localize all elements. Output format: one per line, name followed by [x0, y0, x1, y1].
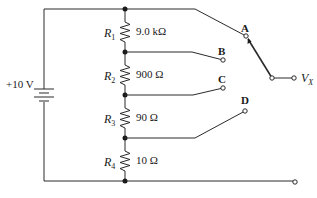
switch-label-a: A: [241, 22, 249, 34]
resistor-r2-icon: [120, 65, 130, 85]
r3-value: 90 Ω: [136, 111, 158, 123]
resistor-r3-icon: [120, 108, 130, 128]
terminal-d[interactable]: [243, 109, 247, 113]
terminal-ground[interactable]: [293, 180, 297, 184]
switch-label-d: D: [241, 94, 249, 106]
switch-label-c: C: [218, 73, 226, 85]
resistor-r1-icon: [120, 22, 130, 42]
switch-label-b: B: [218, 45, 226, 57]
r3-name: R3: [103, 112, 115, 128]
r4-name: R4: [103, 155, 115, 171]
wire-to-c: [125, 88, 223, 95]
battery-icon: [34, 89, 54, 101]
r2-name: R2: [103, 69, 115, 85]
resistor-r4-icon: [120, 151, 130, 171]
r2-value: 900 Ω: [136, 68, 163, 80]
r1-name: R1: [103, 26, 115, 42]
switch-pivot: [270, 76, 274, 80]
node-dot: [123, 179, 128, 184]
terminal-vx[interactable]: [292, 76, 296, 80]
node-dot: [123, 7, 128, 12]
output-label: VX: [301, 71, 314, 87]
terminal-a[interactable]: [244, 34, 248, 38]
r4-value: 10 Ω: [136, 154, 158, 166]
terminal-c[interactable]: [221, 86, 225, 90]
r1-value: 9.0 kΩ: [136, 25, 166, 37]
terminal-b[interactable]: [221, 58, 225, 62]
switch-arm[interactable]: [248, 39, 272, 78]
source-label: +10 V: [6, 78, 34, 90]
wire-to-b: [125, 52, 223, 60]
circuit-diagram: +10 V R1 9.0 kΩ R2 900 Ω R3 90 Ω R4 10 Ω…: [0, 0, 317, 198]
